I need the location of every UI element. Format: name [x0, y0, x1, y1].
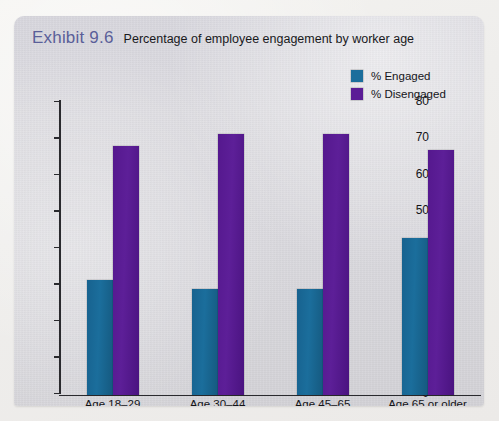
legend-item-engaged: % Engaged	[351, 70, 446, 82]
bars-layer	[61, 103, 481, 395]
x-axis-category-labels: Age 18–29Age 30–44Age 45–65Age 65 or old…	[60, 398, 480, 406]
y-axis-tick	[54, 320, 60, 322]
y-axis-tick	[54, 101, 60, 103]
exhibit-page: Exhibit 9.6 Percentage of employee engag…	[0, 0, 499, 421]
y-axis-tick	[54, 210, 60, 212]
y-axis-tick	[54, 283, 60, 285]
x-axis-category-label: Age 65 or older	[375, 398, 480, 406]
bar-disengaged	[218, 134, 244, 395]
exhibit-card: Exhibit 9.6 Percentage of employee engag…	[14, 16, 484, 406]
exhibit-title: Percentage of employee engagement by wor…	[124, 32, 414, 46]
exhibit-header: Exhibit 9.6 Percentage of employee engag…	[32, 28, 414, 48]
x-axis-category-label: Age 45–65	[270, 398, 375, 406]
bar-engaged	[192, 289, 218, 395]
bar-group	[271, 103, 376, 395]
y-axis-tick	[54, 356, 60, 358]
square-swatch-icon	[351, 70, 363, 82]
square-swatch-icon	[351, 88, 363, 100]
chart-plot-area: 01020304050607080	[59, 100, 481, 396]
bar-disengaged	[113, 146, 139, 394]
x-axis-category-label: Age 30–44	[165, 398, 270, 406]
bar-engaged	[297, 289, 323, 395]
legend-label-engaged: % Engaged	[371, 70, 430, 82]
bar-engaged	[87, 280, 113, 395]
y-axis-tick	[54, 247, 60, 249]
y-axis-tick	[54, 137, 60, 139]
y-axis-tick	[54, 393, 60, 395]
y-axis-tick	[54, 174, 60, 176]
x-axis-category-label: Age 18–29	[60, 398, 165, 406]
bar-group	[61, 103, 166, 395]
bar-disengaged	[428, 150, 454, 395]
bar-engaged	[402, 238, 428, 395]
bar-disengaged	[323, 134, 349, 395]
bar-group	[166, 103, 271, 395]
bar-group	[376, 103, 481, 395]
exhibit-number: Exhibit 9.6	[32, 28, 114, 48]
